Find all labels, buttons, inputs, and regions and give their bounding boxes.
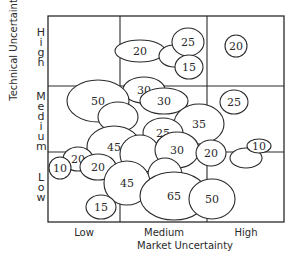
x-tick-high: High	[206, 227, 286, 238]
bubble: 25	[220, 90, 248, 114]
bubble-label: 25	[181, 36, 195, 49]
x-tick-low: Low	[44, 227, 124, 238]
bubble: 25	[172, 28, 204, 56]
bubble-label: 25	[227, 96, 241, 109]
bubble-label: 20	[204, 147, 218, 160]
x-axis-label: Market Uncertainty	[120, 240, 250, 251]
bubble-label: 20	[133, 45, 147, 58]
bubble-label: 50	[205, 193, 219, 206]
y-tick-letter: h	[36, 58, 46, 68]
bubble-label: 30	[170, 144, 184, 157]
bubble-label: 10	[252, 140, 266, 153]
bubble-label: 65	[167, 190, 181, 203]
bubble: 15	[86, 195, 116, 219]
bubble-label: 20	[229, 40, 243, 53]
bubble-label: 10	[53, 162, 67, 175]
bubble-label: 45	[120, 177, 134, 190]
bubbles-group: 2025152030305025352545302010201020456550…	[49, 28, 271, 220]
y-tick-high: H i g h	[36, 28, 46, 68]
bubble: 20	[225, 35, 247, 57]
y-tick-letter: w	[36, 193, 46, 203]
bubble: 20	[115, 40, 165, 62]
x-tick-medium: Medium	[124, 227, 204, 238]
y-tick-letter: m	[36, 142, 46, 152]
bubble: 20	[196, 140, 226, 166]
bubble-label: 15	[94, 201, 108, 214]
bubble-label: 20	[91, 161, 105, 174]
bubble-label: 35	[192, 118, 206, 131]
bubble-label: 50	[91, 95, 105, 108]
bubble-label: 30	[157, 95, 171, 108]
y-axis-label: Technical Uncertainty	[7, 0, 21, 122]
bubble: 10	[49, 157, 71, 179]
bubble-label: 15	[182, 61, 196, 74]
y-tick-medium: M e d i u m	[36, 92, 46, 152]
bubble: 10	[247, 139, 271, 153]
bubble-label: 45	[107, 141, 121, 154]
bubble: 15	[175, 55, 203, 79]
y-tick-low: L o w	[36, 173, 46, 203]
bubble: 50	[189, 179, 235, 219]
